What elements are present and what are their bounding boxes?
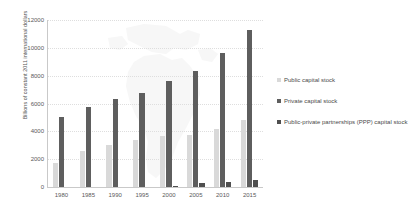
bars-layer: [48, 20, 263, 187]
bar: [86, 107, 91, 187]
legend-swatch-icon: [277, 78, 281, 82]
y-axis-tick-label: 6000: [31, 101, 44, 107]
legend-item[interactable]: Private capital stock: [277, 97, 413, 105]
bar: [241, 120, 246, 187]
plot-area: 020004000600080001000012000 198019851990…: [47, 20, 263, 188]
x-axis-tick-label: 2005: [182, 192, 209, 198]
bar: [106, 145, 111, 187]
x-axis-tick-label: 2010: [209, 192, 236, 198]
bar: [80, 151, 85, 187]
legend-label: Private capital stock: [284, 97, 337, 105]
bar-group: [133, 20, 151, 187]
bar-group: [241, 20, 259, 187]
x-axis-tick-label: 1985: [75, 192, 102, 198]
bar: [173, 186, 178, 187]
bar: [253, 180, 258, 187]
bar-group: [53, 20, 71, 187]
bar: [193, 71, 198, 187]
bar: [187, 135, 192, 187]
y-axis-tick-label: 12000: [27, 17, 44, 23]
y-axis-tick-label: 4000: [31, 128, 44, 134]
legend: Public capital stockPrivate capital stoc…: [277, 76, 413, 139]
bar: [113, 99, 118, 187]
bar-group: [187, 20, 205, 187]
y-axis-tick-label: 0: [41, 184, 44, 190]
x-axis-tick-label: 1990: [102, 192, 129, 198]
legend-label: Public-private partnerships (PPP) capita…: [284, 118, 407, 126]
bar: [53, 163, 58, 187]
x-axis-tick-label: 1995: [129, 192, 156, 198]
legend-item[interactable]: Public-private partnerships (PPP) capita…: [277, 118, 413, 126]
legend-swatch-icon: [277, 120, 281, 124]
x-axis-tick-label: 1980: [48, 192, 75, 198]
y-axis-tick-label: 10000: [27, 45, 44, 51]
bar: [220, 53, 225, 187]
bar: [199, 183, 204, 187]
bar: [166, 81, 171, 187]
legend-label: Public capital stock: [284, 76, 335, 84]
bar-group: [80, 20, 98, 187]
bar: [139, 93, 144, 187]
y-axis-tick-label: 8000: [31, 73, 44, 79]
bar-group: [160, 20, 178, 187]
bar-chart: Billions of constant 2011 international …: [0, 0, 418, 214]
bar: [133, 140, 138, 187]
x-axis-tick-label: 2015: [236, 192, 263, 198]
bar: [214, 129, 219, 187]
bar-group: [106, 20, 124, 187]
bar: [160, 136, 165, 187]
bar: [247, 30, 252, 187]
legend-item[interactable]: Public capital stock: [277, 76, 413, 84]
legend-swatch-icon: [277, 99, 281, 103]
bar: [59, 117, 64, 187]
y-axis-tick-label: 2000: [31, 156, 44, 162]
bar-group: [214, 20, 232, 187]
bar: [226, 182, 231, 187]
x-axis-tick-label: 2000: [156, 192, 183, 198]
